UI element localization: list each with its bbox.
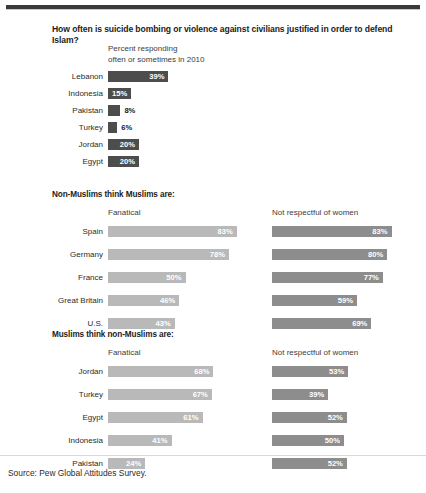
bar-row: Turkey67% xyxy=(108,389,263,400)
bar-row: 50% xyxy=(272,435,416,446)
chart2-column-header-not-respectful: Not respectful of women xyxy=(272,208,358,217)
bar-row-label: Turkey xyxy=(79,389,103,400)
bar: 69% xyxy=(272,318,371,329)
bar-row: U.S.43% xyxy=(108,318,263,329)
bar: 41% xyxy=(108,435,172,446)
bar-row-label: Pakistan xyxy=(72,105,103,116)
bar-value-label: 68% xyxy=(194,366,209,377)
bar-value-label: 50% xyxy=(166,272,181,283)
bar: 77% xyxy=(272,272,383,283)
bar-row: 80% xyxy=(272,249,416,260)
chart1-subtitle: Percent responding often or sometimes in… xyxy=(108,44,205,65)
bar: 6% xyxy=(108,122,117,133)
bar-row: 59% xyxy=(272,295,416,306)
bar-value-label: 15% xyxy=(112,88,127,99)
bottom-divider-rule xyxy=(0,455,426,456)
page-title: How often is suicide bombing or violence… xyxy=(52,24,418,46)
bar-row: Indonesia15% xyxy=(108,88,263,99)
bar: 52% xyxy=(272,412,347,423)
bar: 8% xyxy=(108,105,120,116)
bar-value-label: 46% xyxy=(160,295,175,306)
bar-row-label: Egypt xyxy=(83,156,103,167)
chart-suicide-bombing-justified: Lebanon39%Indonesia15%Pakistan8%Turkey6%… xyxy=(108,71,263,173)
bar-row-label: Great Britain xyxy=(58,295,103,306)
bar-row-label: Jordan xyxy=(79,366,103,377)
bar-value-label: 43% xyxy=(155,318,170,329)
bar-row: Egypt20% xyxy=(108,156,263,167)
bar: 20% xyxy=(108,156,139,167)
bar-row: Spain83% xyxy=(108,226,263,237)
bar: 83% xyxy=(272,226,392,237)
bar-row: Turkey6% xyxy=(108,122,263,133)
bar-row-label: Indonesia xyxy=(68,435,103,446)
bar: 53% xyxy=(272,366,348,377)
bar-value-label: 83% xyxy=(217,226,232,237)
bar-row: France50% xyxy=(108,272,263,283)
chart3-column-header-fanatical: Fanatical xyxy=(108,348,140,357)
bar: 59% xyxy=(272,295,357,306)
bar: 50% xyxy=(272,435,344,446)
bar-value-label: 52% xyxy=(328,412,343,423)
bar: 15% xyxy=(108,88,131,99)
bar-value-label: 53% xyxy=(329,366,344,377)
chart3-column-header-not-respectful: Not respectful of women xyxy=(272,348,358,357)
bar-row-label: Germany xyxy=(70,249,103,260)
bar-row: 52% xyxy=(272,412,416,423)
bar: 83% xyxy=(108,226,237,237)
bar-row-label: Spain xyxy=(83,226,103,237)
bar-row: Lebanon39% xyxy=(108,71,263,82)
bar-row: Indonesia41% xyxy=(108,435,263,446)
bar-value-label: 67% xyxy=(193,389,208,400)
bar-row-label: France xyxy=(78,272,103,283)
bar-row: Egypt61% xyxy=(108,412,263,423)
top-divider-shadow xyxy=(6,9,420,10)
bar: 67% xyxy=(108,389,212,400)
bar-row: 69% xyxy=(272,318,416,329)
section-heading-non-muslims: Non-Muslims think Muslims are: xyxy=(52,190,175,199)
bar: 46% xyxy=(108,295,179,306)
bar: 52% xyxy=(272,458,347,469)
bar-value-label: 80% xyxy=(368,249,383,260)
chart-muslims-not-respectful: 53%39%52%50%52% xyxy=(272,366,416,481)
bar-value-label: 6% xyxy=(121,122,132,133)
bar: 43% xyxy=(108,318,175,329)
bar: 68% xyxy=(108,366,213,377)
bar-row: 52% xyxy=(272,458,416,469)
bar: 50% xyxy=(108,272,186,283)
section-heading-muslims: Muslims think non-Muslims are: xyxy=(52,330,174,339)
bar-value-label: 59% xyxy=(338,295,353,306)
bar-value-label: 61% xyxy=(183,412,198,423)
bar-row: Jordan68% xyxy=(108,366,263,377)
bar-row: 53% xyxy=(272,366,416,377)
bar-row: 83% xyxy=(272,226,416,237)
bar-value-label: 77% xyxy=(364,272,379,283)
bar-value-label: 39% xyxy=(149,71,164,82)
bar-row-label: Turkey xyxy=(79,122,103,133)
bar-row-label: U.S. xyxy=(87,318,103,329)
chart-muslims-fanatical: Jordan68%Turkey67%Egypt61%Indonesia41%Pa… xyxy=(108,366,263,481)
bar-value-label: 20% xyxy=(120,156,135,167)
source-note: Source: Pew Global Attitudes Survey. xyxy=(8,468,147,478)
bar-value-label: 69% xyxy=(352,318,367,329)
bar-value-label: 78% xyxy=(210,249,225,260)
bar: 80% xyxy=(272,249,387,260)
bar-row-label: Indonesia xyxy=(68,88,103,99)
chart-non-muslims-not-respectful: 83%80%77%59%69% xyxy=(272,226,416,341)
bar-value-label: 41% xyxy=(152,435,167,446)
bar-row-label: Egypt xyxy=(83,412,103,423)
chart1-subtitle-line2: often or sometimes in 2010 xyxy=(108,55,205,66)
chart-non-muslims-fanatical: Spain83%Germany78%France50%Great Britain… xyxy=(108,226,263,341)
bar: 78% xyxy=(108,249,229,260)
bar: 61% xyxy=(108,412,203,423)
bar: 20% xyxy=(108,139,139,150)
bar: 39% xyxy=(272,389,328,400)
bar-value-label: 8% xyxy=(124,105,135,116)
bar-row-label: Lebanon xyxy=(72,71,103,82)
bar-value-label: 20% xyxy=(120,139,135,150)
bar-row: Jordan20% xyxy=(108,139,263,150)
infographic-page: How often is suicide bombing or violence… xyxy=(0,0,426,493)
bar-value-label: 52% xyxy=(328,458,343,469)
bar-row: Great Britain46% xyxy=(108,295,263,306)
chart1-subtitle-line1: Percent responding xyxy=(108,44,205,55)
bar-row: Pakistan8% xyxy=(108,105,263,116)
